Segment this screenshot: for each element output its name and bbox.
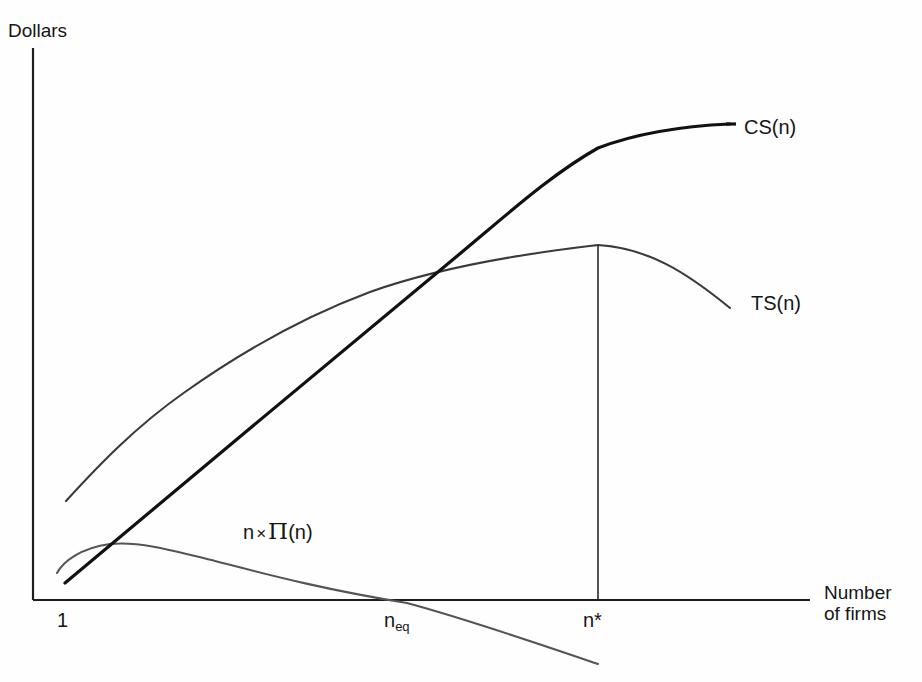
x-axis-label: Numberof firms: [824, 582, 892, 625]
x-tick-one: 1: [57, 609, 68, 631]
economics-surplus-chart: [0, 0, 922, 682]
chart-canvas: Dollars Numberof firms 1 neq n* CS(n) TS…: [0, 0, 922, 682]
profit-curve: [57, 543, 598, 664]
series-label-profit: n×Π(n): [243, 519, 313, 545]
x-tick-neq: neq: [384, 609, 410, 631]
y-axis-label: Dollars: [8, 20, 67, 41]
series-label-cs: CS(n): [744, 116, 796, 138]
x-tick-neq-subscript: eq: [395, 619, 409, 634]
x-axis-label-line1: Number: [824, 582, 892, 603]
ts-curve: [66, 245, 730, 501]
multiplication-sign-icon: ×: [254, 524, 268, 543]
pi-symbol-icon: Π: [268, 518, 288, 544]
series-label-ts: TS(n): [751, 292, 801, 314]
x-tick-nstar: n*: [583, 609, 602, 631]
x-axis-label-line2: of firms: [824, 603, 892, 624]
cs-curve: [65, 124, 730, 583]
x-tick-neq-base: n: [384, 609, 395, 631]
